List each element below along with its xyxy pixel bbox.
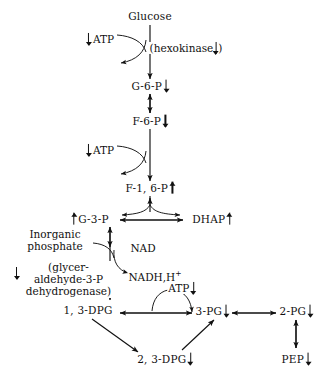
enzyme-gapdh-line2: aldehyde-3-P [23,273,114,285]
trend-up-icon [227,213,232,225]
node-f6p: F-6-P [131,115,168,128]
cofactor-nad-label: NAD [130,242,155,254]
trend-down-icon [213,42,218,54]
enzyme-gapdh: (glycer- aldehyde-3-P dehydrogenase) [14,261,114,298]
cofactor-atp-pfk-label: ATP [93,144,114,156]
cofactor-atp-hexokinase-label: ATP [93,33,114,45]
trend-down-icon [307,305,312,317]
node-f16p: F-1, 6-P [124,182,175,195]
enzyme-hexokinase: (hexokinase) [149,42,224,54]
enzyme-gapdh-line3: dehydrogenase) [23,285,114,297]
cofactor-nad: NAD [129,242,156,254]
node-23dpg: 2, 3-DPG [136,353,194,366]
enzyme-gapdh-line1: (glycer- [23,261,114,273]
trend-down-icon [188,353,193,365]
enzyme-hexokinase-suffix: ) [218,42,222,54]
node-glucose-label: Glucose [128,10,172,22]
trend-down-icon [163,115,168,127]
node-f6p-label: F-6-P [132,115,161,127]
trend-down-icon [163,80,168,92]
node-23dpg-label: 2, 3-DPG [137,353,186,365]
node-g3p: G-3-P [70,213,109,226]
node-13dpg-label: 1, 3-DPG [63,304,112,316]
node-dhap: DHAP [191,213,233,226]
trend-up-icon [170,182,175,194]
trend-down-icon [305,353,310,365]
node-g6p: G-6-P [131,80,170,93]
node-g6p-label: G-6-P [132,80,162,92]
node-glucose: Glucose [127,11,173,23]
cofactor-inorganic-phosphate-line2: phosphate [27,240,82,252]
node-3pg: 3-PG [195,305,230,318]
enzyme-hexokinase-label: (hexokinase [150,42,214,54]
node-g3p-label: G-3-P [78,213,108,225]
cofactor-inorganic-phosphate: Inorganic phosphate [26,228,83,252]
node-13dpg: 1, 3-DPG [62,305,113,317]
node-pep: PEP [281,353,312,366]
node-pep-label: PEP [282,353,304,365]
cofactor-atp-pgk: ATP [167,282,197,294]
cofactor-nadh-superscript: + [175,269,181,278]
trend-up-icon [71,213,76,225]
node-3pg-label: 3-PG [196,305,222,317]
trend-down-icon [86,33,91,45]
cofactor-atp-pfk: ATP [85,144,115,156]
trend-down-icon [191,282,196,294]
pathway-diagram-canvas: Glucose G-6-P F-6-P F-1, 6-P G-3-P DHAP … [0,0,332,381]
trend-down-icon [86,144,91,156]
node-f16p-label: F-1, 6-P [125,182,168,194]
node-dhap-label: DHAP [192,213,225,225]
trend-down-icon [14,267,19,279]
cofactor-atp-hexokinase: ATP [85,33,115,45]
cofactor-inorganic-phosphate-line1: Inorganic [27,228,82,240]
cofactor-atp-pgk-label: ATP [168,282,189,294]
node-2pg-label: 2-PG [280,305,306,317]
node-2pg: 2-PG [279,305,314,318]
trend-down-icon [223,305,228,317]
